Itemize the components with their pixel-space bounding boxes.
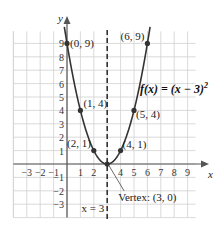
axes: xy	[13, 12, 213, 218]
data-point	[105, 161, 110, 166]
point-label: (2, 1)	[67, 137, 91, 150]
y-tick-label: −2	[53, 186, 64, 197]
data-point	[91, 148, 96, 153]
y-tick-label: 3	[59, 119, 64, 130]
grid	[13, 31, 195, 217]
x-arrow-icon	[201, 161, 209, 168]
x-axis-label: x	[207, 168, 213, 180]
y-tick-label: 5	[59, 92, 64, 103]
annotations: (0, 9)(1, 4)(2, 1)(4, 1)(5, 4)(6, 9)f(x)…	[67, 30, 208, 214]
y-axis-label: y	[57, 12, 63, 24]
vertex-label: Vertex: (3, 0)	[118, 191, 177, 204]
x-tick-label: 7	[158, 167, 163, 178]
x-tick-label: 6	[145, 167, 150, 178]
y-tick-label: 9	[59, 38, 64, 49]
point-label: (1, 4)	[83, 97, 107, 110]
y-tick-label: 4	[59, 105, 64, 116]
x-tick-label: 8	[172, 167, 177, 178]
y-tick-label: 1	[59, 146, 64, 157]
parabola-chart: xy −3−2−112456789987654321−1−2−3 (0, 9)(…	[0, 0, 220, 230]
y-tick-label: 6	[59, 79, 64, 90]
x-tick-label: 1	[78, 167, 83, 178]
x-tick-label: −2	[35, 167, 46, 178]
data-point	[78, 108, 83, 113]
data-point	[64, 41, 69, 46]
x-tick-label: 5	[132, 167, 137, 178]
x-tick-label: −3	[21, 167, 32, 178]
x-tick-label: 4	[118, 167, 123, 178]
data-point	[145, 41, 150, 46]
point-label: (0, 9)	[70, 37, 94, 50]
x-tick-label: 2	[91, 167, 96, 178]
point-label: (6, 9)	[121, 30, 145, 43]
function-label: f(x) = (x − 3)2	[140, 81, 208, 96]
y-tick-label: −1	[53, 172, 64, 183]
y-tick-label: 8	[59, 52, 64, 63]
y-tick-label: 2	[59, 132, 64, 143]
symmetry-label: x = 3	[81, 202, 104, 214]
y-tick-label: 7	[59, 65, 64, 76]
y-arrow-icon	[64, 16, 71, 24]
point-label: (5, 4)	[136, 108, 160, 121]
y-tick-label: −3	[53, 199, 64, 210]
tick-labels: −3−2−112456789987654321−1−2−3	[21, 38, 190, 210]
x-tick-label: 9	[185, 167, 190, 178]
point-label: (4, 1)	[123, 138, 147, 151]
